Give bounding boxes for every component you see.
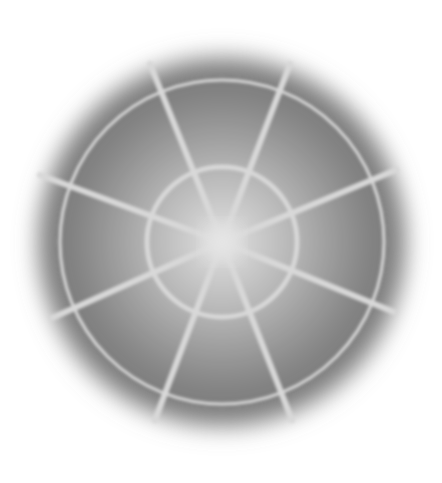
radial-web-graphic: [0, 0, 442, 483]
center-glow: [204, 224, 240, 260]
radial-pattern-image: [0, 0, 442, 483]
